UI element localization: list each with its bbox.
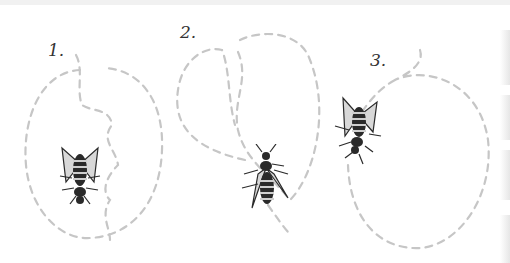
- bee-icon: [52, 142, 108, 214]
- edge-shadow: [500, 215, 510, 263]
- edge-shadow: [500, 30, 510, 85]
- flight-paths: [0, 0, 510, 263]
- path-2-loop-b: [177, 49, 245, 160]
- panel-label-2: 2.: [180, 22, 196, 42]
- panel-label-3: 3.: [370, 50, 386, 70]
- bee-icon: [238, 144, 294, 216]
- edge-shadow: [500, 150, 510, 200]
- edge-shadow: [500, 95, 510, 140]
- panel-label-1: 1.: [48, 40, 64, 60]
- bee-icon: [333, 96, 385, 166]
